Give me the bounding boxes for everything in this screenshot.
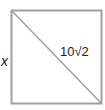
side-label: x bbox=[1, 53, 8, 69]
diagonal-label: 10√2 bbox=[60, 44, 89, 59]
square-diagram bbox=[0, 0, 105, 110]
